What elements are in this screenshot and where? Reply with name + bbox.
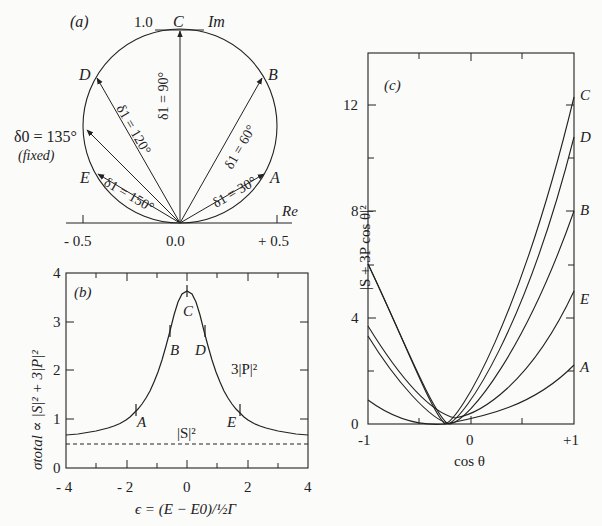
angle-label-d: δ1 = 120° xyxy=(113,102,154,157)
angle-label-a: δ1 = 30° xyxy=(210,174,259,211)
panel-c-frame xyxy=(368,53,574,424)
panel-b-marker-b: B xyxy=(170,342,179,358)
point-label-d: D xyxy=(78,66,91,83)
panel-c-xtick-neg1: -1 xyxy=(358,432,371,448)
panel-c-curve-c xyxy=(368,97,574,424)
panel-c-xtick-0: 0 xyxy=(466,432,474,448)
figure: (a) 1.0 C Im Re - 0.5 0.0 + 0.5 B A D E … xyxy=(0,0,602,526)
panel-b-marker-e: E xyxy=(226,414,236,430)
point-label-e: E xyxy=(79,169,90,186)
panel-a-argand-diagram: (a) 1.0 C Im Re - 0.5 0.0 + 0.5 B A D E … xyxy=(14,13,298,249)
panel-b-label: (b) xyxy=(74,284,92,301)
panel-c-angular-distribution: 12 8 4 0 -1 0 +1 cos θ |S + 3P cos θ|² (… xyxy=(343,53,591,469)
re-tick-label-zero: 0.0 xyxy=(166,233,185,249)
point-label-b: B xyxy=(268,66,278,83)
re-tick-label-pos: + 0.5 xyxy=(258,233,289,249)
panel-b-marker-d: D xyxy=(194,342,206,358)
panel-b-xtick-0: 0 xyxy=(183,479,191,495)
fixed-phase-label: δ0 = 135° xyxy=(14,128,77,145)
point-label-c: C xyxy=(173,13,184,30)
panel-c-curve-label-b: B xyxy=(580,202,589,218)
angle-label-c: δ1 = 90° xyxy=(156,72,171,120)
panel-b-xtick-4: 4 xyxy=(304,479,312,495)
panel-c-curve-a xyxy=(368,365,574,424)
panel-c-curve-label-c: C xyxy=(580,87,591,103)
panel-a-label: (a) xyxy=(70,13,89,31)
panel-b-marker-a: A xyxy=(136,414,147,430)
panel-c-curve-label-e: E xyxy=(579,291,589,307)
panel-b-xlabel: ϵ = (E − E0)/½Γ xyxy=(135,501,238,518)
panel-c-ytick-12: 12 xyxy=(343,97,358,113)
panel-b-cross-section: 4 3 2 1 0 - 4 - 2 0 2 4 ϵ = (E − E0)/½Γ … xyxy=(29,265,312,518)
panel-c-xlabel: cos θ xyxy=(454,453,485,469)
panel-b-xtick-neg4: - 4 xyxy=(56,479,73,495)
re-axis-label: Re xyxy=(281,203,298,219)
panel-b-baseline-label: |S|² xyxy=(177,425,196,441)
point-label-a: A xyxy=(269,169,280,186)
panel-b-ytick-4: 4 xyxy=(53,265,61,281)
panel-c-ytick-0: 0 xyxy=(351,416,359,432)
panel-b-ytick-3: 3 xyxy=(53,314,61,330)
re-tick-label-neg: - 0.5 xyxy=(64,233,92,249)
im-top-tick-label: 1.0 xyxy=(134,14,153,30)
panel-b-ytick-1: 1 xyxy=(53,411,61,427)
panel-c-curves xyxy=(368,97,574,424)
panel-c-curve-label-d: D xyxy=(579,129,591,145)
panel-b-curve-label: 3|P|² xyxy=(231,361,258,377)
im-axis-label: Im xyxy=(207,13,225,30)
fixed-phase-note: (fixed) xyxy=(18,148,55,164)
panel-b-ylabel: σtotal ∝ |S|² + 3|P|² xyxy=(29,350,45,470)
panel-c-curve-label-a: A xyxy=(579,359,590,375)
panel-b-xtick-2: 2 xyxy=(244,479,252,495)
panel-b-ytick-2: 2 xyxy=(53,362,61,378)
panel-b-marker-c: C xyxy=(183,303,194,319)
panel-b-xtick-neg2: - 2 xyxy=(117,479,133,495)
angle-label-b: δ1 = 60° xyxy=(222,122,259,171)
panel-c-xtick-pos1: +1 xyxy=(563,432,579,448)
panel-c-label: (c) xyxy=(384,77,401,94)
panel-c-ytick-4: 4 xyxy=(351,310,359,326)
panel-c-ylabel: |S + 3P cos θ|² xyxy=(357,205,373,290)
panel-b-ytick-0: 0 xyxy=(53,460,61,476)
panel-c-ticks xyxy=(368,53,574,424)
